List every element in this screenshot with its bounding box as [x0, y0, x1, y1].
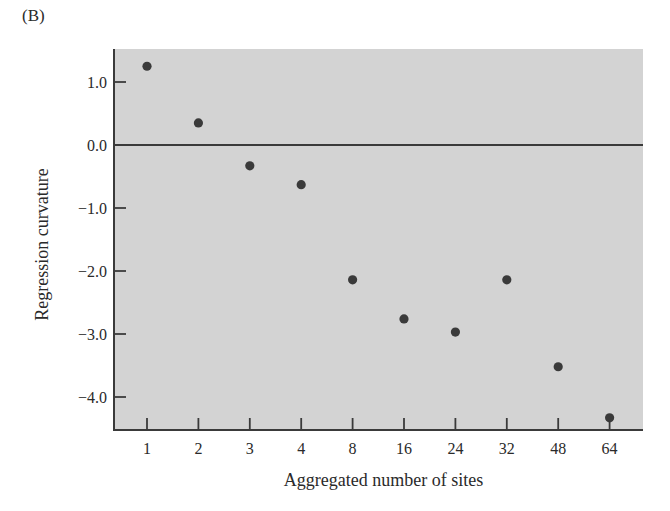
x-tick-label: 4	[297, 440, 305, 457]
plot-background	[114, 49, 643, 430]
data-point	[142, 62, 151, 71]
y-tick-label: −2.0	[78, 263, 107, 280]
x-tick-label: 2	[194, 440, 202, 457]
data-point	[348, 275, 357, 284]
data-point	[451, 328, 460, 337]
x-tick-label: 24	[447, 440, 463, 457]
x-axis-title: Aggregated number of sites	[284, 470, 483, 490]
data-point	[605, 413, 614, 422]
y-tick-label: −4.0	[78, 389, 107, 406]
x-tick-label: 8	[349, 440, 357, 457]
x-tick-label: 32	[499, 440, 515, 457]
x-tick-label: 3	[246, 440, 254, 457]
data-point	[554, 362, 563, 371]
y-tick-label: −3.0	[78, 326, 107, 343]
y-tick-label: 1.0	[87, 74, 107, 91]
data-point	[297, 180, 306, 189]
x-tick-label: 64	[602, 440, 618, 457]
x-tick-label: 48	[550, 440, 566, 457]
x-tick-label: 1	[143, 440, 151, 457]
x-tick-label: 16	[396, 440, 412, 457]
data-point	[399, 314, 408, 323]
data-point	[245, 161, 254, 170]
data-point	[502, 275, 511, 284]
scatter-chart: 1.00.0−1.0−2.0−3.0−4.0 123481624324864 A…	[0, 0, 670, 511]
data-point	[194, 118, 203, 127]
y-tick-label: −1.0	[78, 200, 107, 217]
y-axis-title: Regression curvature	[32, 168, 52, 320]
y-tick-label: 0.0	[87, 137, 107, 154]
